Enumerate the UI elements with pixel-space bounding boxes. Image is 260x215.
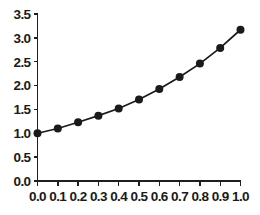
y-tick-label: 0.5: [14, 150, 32, 165]
data-point-marker: [135, 95, 143, 103]
x-tick-label: 0.2: [70, 189, 87, 204]
y-tick-label: 3.5: [14, 7, 32, 22]
y-tick-label: 0.0: [14, 174, 31, 189]
data-point-marker: [237, 26, 245, 34]
x-tick-label: 1.0: [232, 189, 249, 204]
data-point-marker: [155, 85, 163, 93]
x-axis-tick-labels: 0.00.10.20.30.40.50.60.70.80.91.0: [29, 189, 249, 204]
data-point-marker: [196, 60, 204, 68]
x-tick-label: 0.7: [171, 189, 188, 204]
data-point-marker: [94, 112, 102, 120]
y-tick-label: 2.0: [14, 78, 31, 93]
chart-page: 0.00.51.01.52.02.53.03.5 0.00.10.20.30.4…: [0, 0, 260, 215]
y-tick-label: 1.5: [14, 102, 32, 117]
x-tick-label: 0.5: [131, 189, 149, 204]
chart-background: [0, 0, 260, 215]
x-tick-label: 0.4: [110, 189, 128, 204]
data-point-marker: [216, 44, 224, 52]
y-tick-label: 2.5: [14, 55, 32, 70]
y-tick-label: 3.0: [14, 31, 31, 46]
data-point-marker: [74, 118, 82, 126]
x-tick-label: 0.1: [49, 189, 67, 204]
x-tick-label: 0.6: [151, 189, 169, 204]
x-tick-label: 0.9: [212, 189, 229, 204]
y-tick-label: 1.0: [14, 126, 31, 141]
line-chart: 0.00.51.01.52.02.53.03.5 0.00.10.20.30.4…: [0, 0, 260, 215]
data-point-marker: [54, 125, 62, 133]
data-point-marker: [176, 73, 184, 81]
data-point-marker: [115, 104, 123, 112]
x-tick-label: 0.0: [29, 189, 46, 204]
x-tick-label: 0.3: [90, 189, 108, 204]
data-point-marker: [34, 129, 42, 137]
x-tick-label: 0.8: [191, 189, 209, 204]
